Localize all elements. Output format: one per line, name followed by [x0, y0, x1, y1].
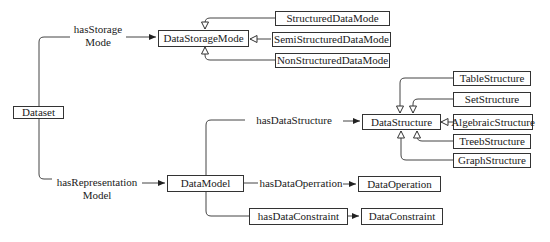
node-treeb-structure: TreebStructure: [453, 134, 531, 149]
label-line: Mode: [70, 36, 126, 49]
node-graph-structure: GraphStructure: [453, 153, 531, 168]
node-table-structure: TableStructure: [453, 71, 531, 86]
node-data-storage-mode: DataStorageMode: [158, 30, 249, 47]
node-set-structure: SetStructure: [453, 92, 531, 107]
node-dataset: Dataset: [13, 106, 64, 119]
node-algebraic-structure: AlgebraicStructure: [453, 114, 533, 130]
node-non-structured-data-mode: NonStructuredDataMode: [275, 53, 390, 68]
label-has-representation-model: hasRepresentation Model: [52, 176, 142, 202]
node-data-structure: DataStructure: [362, 114, 441, 130]
label-line: hasRepresentation: [52, 176, 142, 189]
node-structured-data-mode: StructuredDataMode: [275, 11, 390, 26]
ontology-diagram: Dataset DataStorageMode StructuredDataMo…: [0, 0, 550, 242]
label-line: Model: [52, 189, 142, 202]
label-has-storage-mode: hasStorage Mode: [70, 23, 126, 49]
node-data-constraint: DataConstraint: [361, 208, 443, 225]
label-has-data-operation: hasDataOperration: [259, 177, 343, 190]
node-data-model: DataModel: [167, 175, 244, 192]
label-has-data-constraint: hasDataConstraint: [251, 210, 346, 223]
node-semi-structured-data-mode: SemiStructuredDataMode: [272, 32, 391, 47]
label-line: hasStorage: [70, 23, 126, 36]
node-data-operation: DataOperation: [358, 176, 441, 192]
label-has-data-structure: hasDataStructure: [246, 114, 342, 127]
